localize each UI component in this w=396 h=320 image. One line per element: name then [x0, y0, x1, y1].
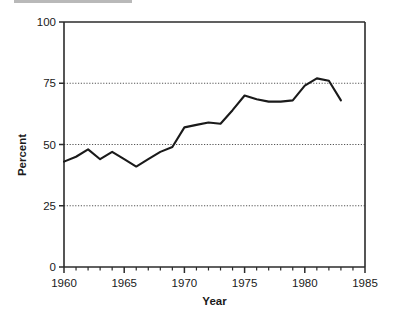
x-tick-label-1960: 1960 — [51, 277, 77, 289]
x-tick-label-1985: 1985 — [352, 277, 378, 289]
y-tick-label-0: 0 — [50, 261, 56, 273]
x-axis-major-ticks — [64, 267, 365, 273]
y-tick-label-25: 25 — [43, 200, 56, 212]
y-axis-tick-labels: 0255075100 — [37, 16, 56, 273]
x-tick-label-1975: 1975 — [232, 277, 258, 289]
x-axis-tick-labels: 196019651970197519801985 — [51, 277, 378, 289]
y-tick-label-75: 75 — [43, 77, 56, 89]
y-axis-title: Percent — [16, 134, 28, 176]
x-tick-label-1970: 1970 — [172, 277, 198, 289]
x-tick-label-1980: 1980 — [292, 277, 318, 289]
data-series-line — [64, 78, 341, 166]
chart-figure: 0255075100 196019651970197519801985 Year… — [0, 0, 396, 320]
y-tick-label-100: 100 — [37, 16, 56, 28]
y-tick-label-50: 50 — [43, 139, 56, 151]
line-chart-plot: 0255075100 196019651970197519801985 Year… — [0, 0, 396, 320]
x-axis-title: Year — [202, 295, 227, 307]
gridlines — [64, 83, 365, 206]
x-tick-label-1965: 1965 — [111, 277, 137, 289]
